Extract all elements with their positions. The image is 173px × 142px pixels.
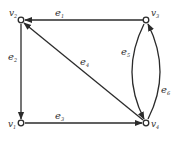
label-e1: e1 [55,7,64,19]
edge-e4 [24,23,143,120]
edge-e6 [148,24,160,119]
label-v1: v1 [8,119,16,130]
label-e6: e6 [161,84,171,96]
label-v4: v4 [151,119,159,130]
label-v2: v2 [9,8,17,19]
label-e2: e2 [8,51,17,63]
vertex-v2 [18,17,24,23]
vertex-v1 [18,120,24,126]
label-e4: e4 [80,56,89,68]
label-v3: v3 [151,8,159,19]
label-e5: e5 [121,46,130,58]
graph-diagram: v2 v3 v1 v4 e1 e2 e3 e4 e5 e6 [0,0,173,142]
label-e3: e3 [55,110,64,122]
edge-e5 [132,24,144,119]
vertex-v3 [143,17,149,23]
vertex-v4 [143,120,149,126]
